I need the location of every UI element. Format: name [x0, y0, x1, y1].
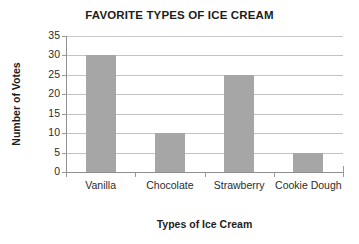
- y-tick-label: 0: [30, 166, 60, 177]
- plot-area: [66, 36, 343, 172]
- y-tick-mark: [62, 94, 67, 95]
- gridline: [66, 36, 343, 37]
- x-tick-label: Chocolate: [135, 178, 204, 193]
- y-tick-mark: [62, 36, 67, 37]
- x-tick-mark: [343, 173, 344, 177]
- y-tick-mark: [62, 75, 67, 76]
- x-tick-mark: [66, 173, 67, 177]
- y-tick-label: 10: [30, 127, 60, 138]
- x-axis-tick-labels: VanillaChocolateStrawberryCookie Dough: [66, 178, 343, 218]
- x-tick-label: Strawberry: [205, 178, 274, 193]
- x-tick-mark: [274, 173, 275, 177]
- y-tick-mark: [62, 55, 67, 56]
- bar: [86, 55, 116, 172]
- bar: [155, 133, 185, 172]
- x-axis-right-cap: [343, 166, 344, 173]
- y-tick-mark: [62, 153, 67, 154]
- y-tick-label: 35: [30, 30, 60, 41]
- x-tick-mark: [135, 173, 136, 177]
- x-axis-title: Types of Ice Cream: [66, 218, 343, 230]
- y-tick-mark: [62, 133, 67, 134]
- y-tick-label: 30: [30, 49, 60, 60]
- x-tick-mark: [205, 173, 206, 177]
- y-tick-mark: [62, 114, 67, 115]
- bar: [293, 153, 323, 172]
- y-axis-title-container: Number of Votes: [8, 29, 24, 179]
- y-tick-label: 25: [30, 69, 60, 80]
- x-tick-label: Vanilla: [66, 178, 135, 193]
- y-tick-label: 5: [30, 147, 60, 158]
- y-axis-tick-labels: 35302520151050: [30, 0, 60, 244]
- y-tick-label: 15: [30, 108, 60, 119]
- y-axis-title: Number of Votes: [9, 36, 23, 172]
- y-tick-label: 20: [30, 88, 60, 99]
- bar-chart: FAVORITE TYPES OF ICE CREAM Number of Vo…: [0, 0, 359, 244]
- bar: [224, 75, 254, 172]
- x-tick-label: Cookie Dough: [274, 178, 343, 193]
